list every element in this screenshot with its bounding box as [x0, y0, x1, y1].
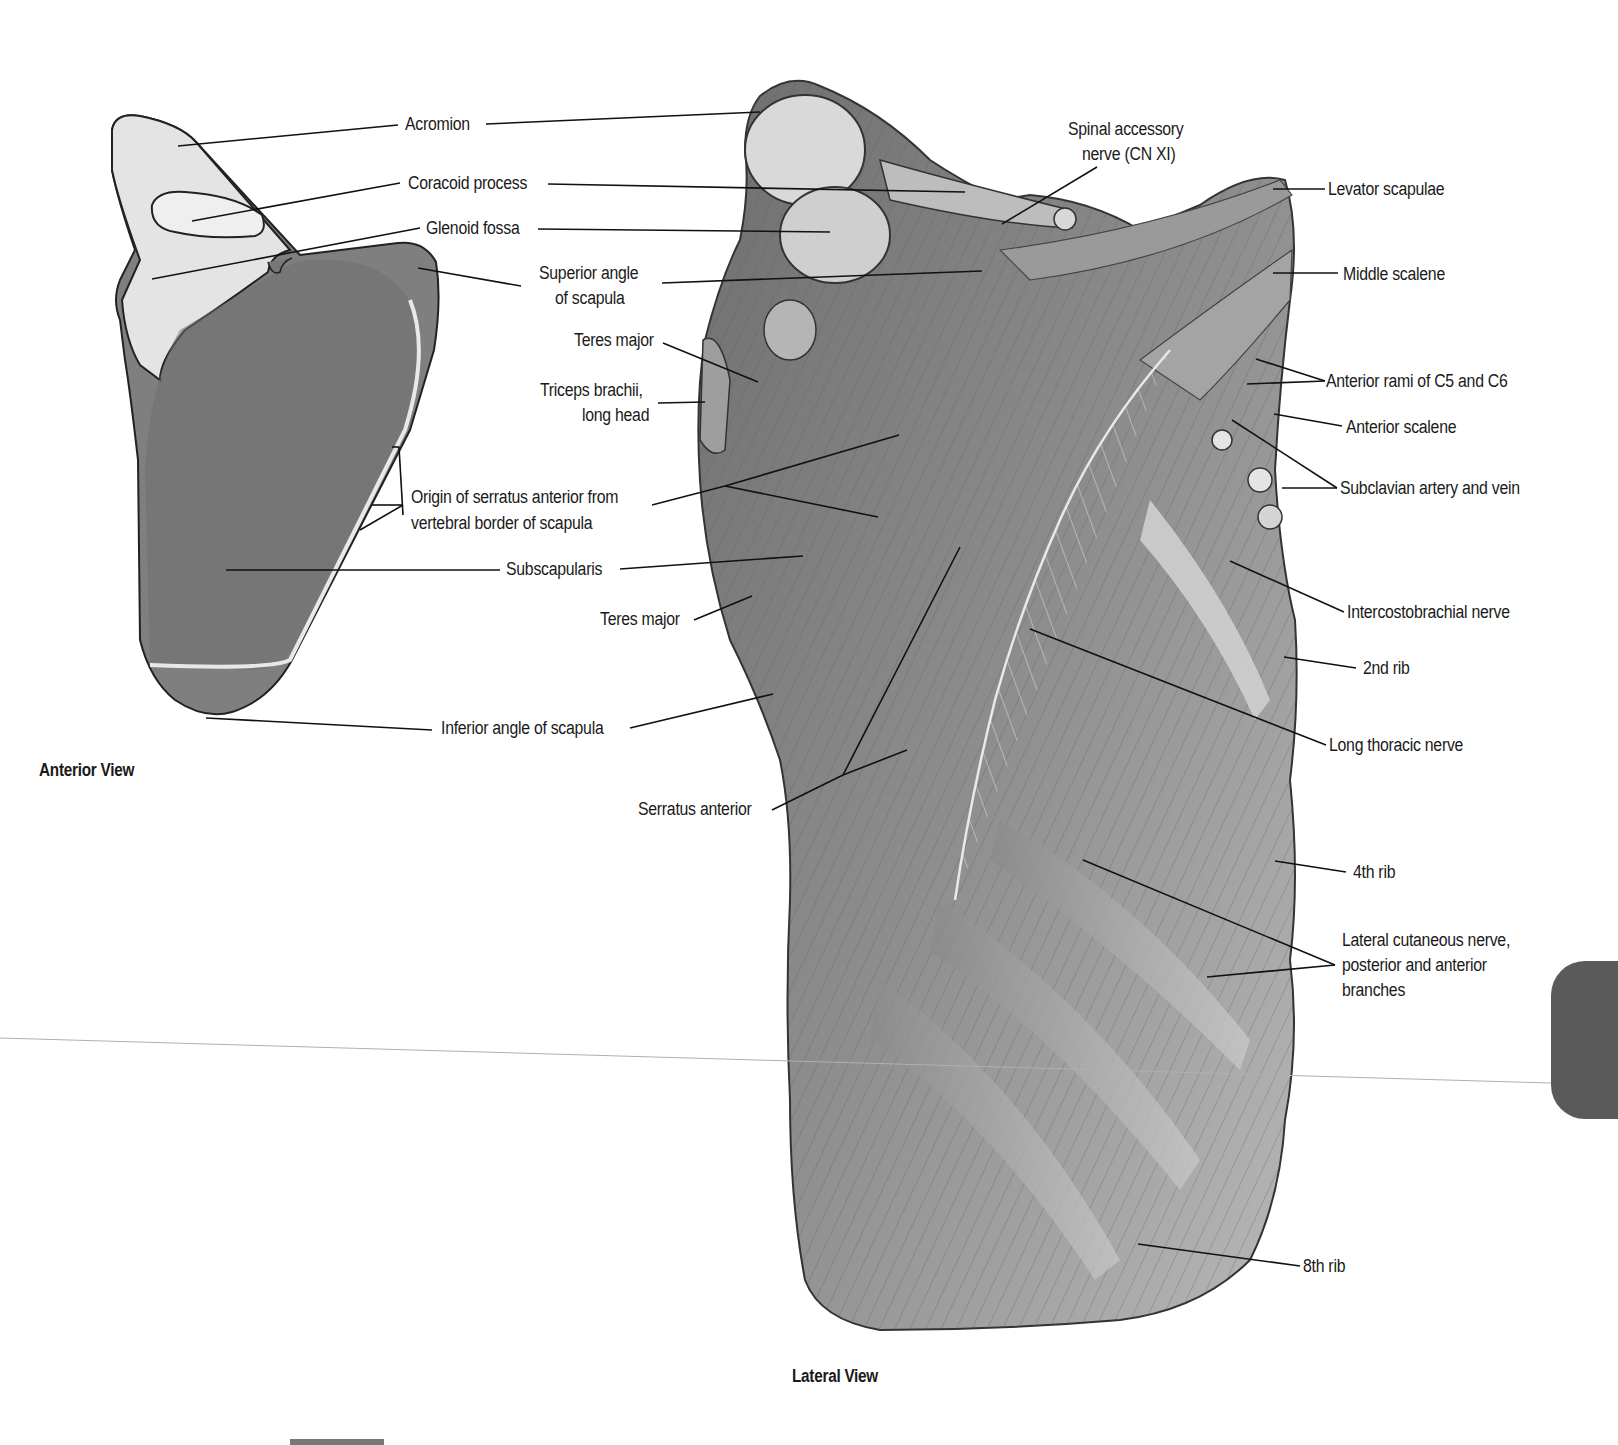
caption-lateral-view: Lateral View [792, 1366, 878, 1387]
label-teres-major-lower: Teres major [600, 608, 680, 630]
label-lateral-cutaneous-line1: Lateral cutaneous nerve, [1342, 929, 1510, 951]
label-acromion: Acromion [405, 113, 470, 135]
section-thumb-tab [1551, 961, 1618, 1119]
label-4th-rib: 4th rib [1353, 861, 1395, 883]
thorax-lateral-illustration [698, 81, 1296, 1330]
label-8th-rib: 8th rib [1303, 1255, 1345, 1277]
label-superior-angle-line1: Superior angle [539, 262, 638, 284]
label-triceps-line1: Triceps brachii, [540, 379, 643, 401]
label-subclavian: Subclavian artery and vein [1340, 477, 1520, 499]
label-lateral-cutaneous-line3: branches [1342, 979, 1405, 1001]
label-2nd-rib: 2nd rib [1363, 657, 1410, 679]
label-teres-major-upper: Teres major [574, 329, 654, 351]
label-anterior-rami: Anterior rami of C5 and C6 [1326, 370, 1508, 392]
anatomy-figure: Acromion Coracoid process Glenoid fossa … [0, 0, 1618, 1445]
label-triceps-line2: long head [582, 404, 649, 426]
label-inferior-angle: Inferior angle of scapula [441, 717, 603, 739]
label-superior-angle-line2: of scapula [555, 287, 625, 309]
label-glenoid-fossa: Glenoid fossa [426, 217, 519, 239]
label-middle-scalene: Middle scalene [1343, 263, 1445, 285]
label-origin-serratus-line2: vertebral border of scapula [411, 512, 592, 534]
label-subscapularis: Subscapularis [506, 558, 602, 580]
caption-anterior-view: Anterior View [39, 760, 134, 781]
label-origin-serratus-line1: Origin of serratus anterior from [411, 486, 618, 508]
label-serratus-anterior: Serratus anterior [638, 798, 751, 820]
label-coracoid-process: Coracoid process [408, 172, 527, 194]
label-levator-scapulae: Levator scapulae [1328, 178, 1444, 200]
label-long-thoracic: Long thoracic nerve [1329, 734, 1463, 756]
illustration-layer [0, 0, 1618, 1445]
label-anterior-scalene: Anterior scalene [1346, 416, 1456, 438]
label-spinal-accessory-line2: nerve (CN XI) [1082, 143, 1175, 165]
label-lateral-cutaneous-line2: posterior and anterior [1342, 954, 1487, 976]
footer-bar [290, 1439, 384, 1445]
label-intercostobrachial: Intercostobrachial nerve [1347, 601, 1510, 623]
label-spinal-accessory-line1: Spinal accessory [1068, 118, 1184, 140]
